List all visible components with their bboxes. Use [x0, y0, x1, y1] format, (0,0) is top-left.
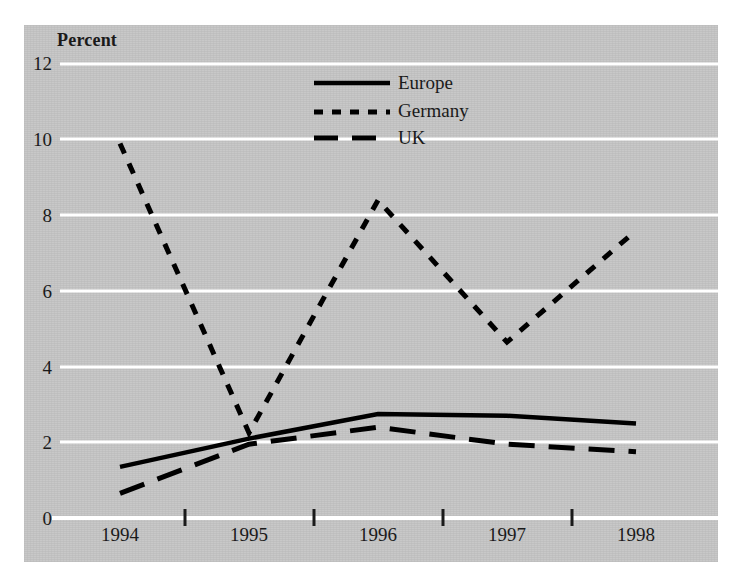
y-tick-label-4: 4 — [18, 357, 52, 379]
y-tick-label-6: 6 — [18, 281, 52, 303]
legend-label-germany: Germany — [398, 100, 469, 122]
gridlines — [60, 64, 718, 442]
series-line-germany — [120, 143, 636, 433]
x-tick-label-1997: 1997 — [472, 524, 542, 546]
y-axis-title: Percent — [57, 30, 117, 51]
y-tick-label-2: 2 — [18, 432, 52, 454]
y-tick-label-0: 0 — [18, 508, 52, 530]
x-tick-label-1996: 1996 — [343, 524, 413, 546]
legend-label-europe: Europe — [398, 72, 453, 94]
x-tick-label-1995: 1995 — [214, 524, 284, 546]
chart-figure: Percent 12 10 8 6 4 2 0 1994 1995 1996 1… — [0, 0, 735, 583]
legend-label-uk: UK — [398, 127, 425, 149]
plot-area — [24, 25, 718, 562]
plot-panel — [24, 25, 718, 562]
x-tick-label-1994: 1994 — [85, 524, 155, 546]
y-tick-label-12: 12 — [18, 53, 52, 75]
x-tick-label-1998: 1998 — [601, 524, 671, 546]
y-tick-label-10: 10 — [18, 129, 52, 151]
y-tick-label-8: 8 — [18, 205, 52, 227]
legend-swatches — [314, 83, 390, 138]
series-line-europe — [120, 414, 636, 467]
series-line-uk — [120, 427, 636, 493]
